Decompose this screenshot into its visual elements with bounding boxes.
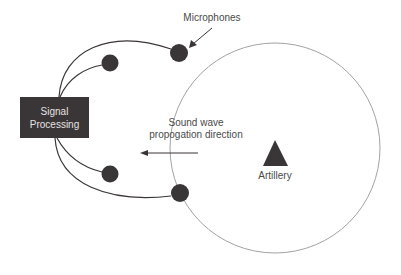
- microphone-2: [102, 55, 119, 72]
- artillery-triangle-icon: [263, 140, 288, 166]
- signal-processing-box: Signal Processing: [20, 97, 89, 138]
- artillery-label: Artillery: [245, 170, 305, 182]
- microphones-pointer-line: [193, 28, 212, 44]
- wire-mic-2: [60, 65, 102, 97]
- propagation-arrowhead-icon: [140, 150, 148, 156]
- wave-label-line2: propogation direction: [126, 129, 266, 141]
- microphone-1: [170, 44, 188, 62]
- wave-label-line1: Sound wave: [136, 117, 256, 129]
- microphone-3: [102, 166, 119, 183]
- wire-mic-3: [57, 138, 102, 172]
- microphones-label: Microphones: [176, 12, 248, 24]
- signal-processing-label: Signal Processing: [30, 105, 79, 131]
- microphone-4: [171, 184, 189, 202]
